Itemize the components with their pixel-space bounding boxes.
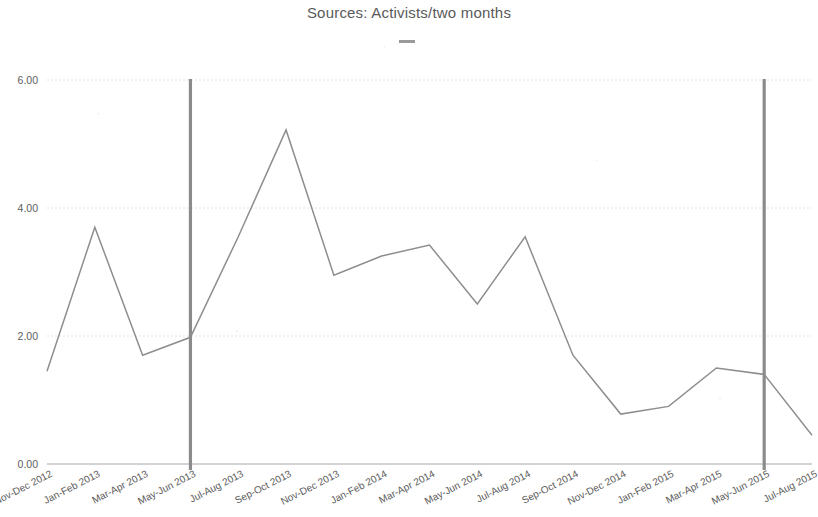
x-axis-tick-labels: Nov-Dec 2012Jan-Feb 2013Mar-Apr 2013May-… xyxy=(0,468,818,507)
x-axis-tick-label: Jul-Aug 2015 xyxy=(761,468,818,505)
chart-plot-area: 0.002.004.006.00 Nov-Dec 2012Jan-Feb 201… xyxy=(0,0,818,517)
reference-marker-lines xyxy=(190,79,764,470)
y-axis-tick-label: 2.00 xyxy=(18,330,39,342)
y-axis-tick-label: 6.00 xyxy=(18,74,39,86)
y-axis-tick-label: 4.00 xyxy=(18,202,39,214)
chart-container: Sources: Activists/two months 0.002.004.… xyxy=(0,0,818,517)
y-axis-tick-label: 0.00 xyxy=(18,458,39,470)
y-axis-tick-labels: 0.002.004.006.00 xyxy=(18,74,39,470)
data-series-group xyxy=(47,130,812,435)
gridlines-group xyxy=(47,80,812,336)
data-series-line xyxy=(47,130,812,435)
